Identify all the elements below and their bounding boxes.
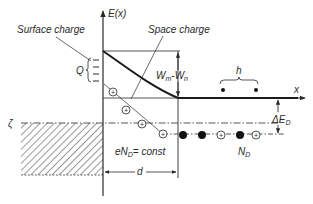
ionized-donor: +	[217, 131, 225, 139]
donor-concentration-label: ND	[238, 146, 250, 158]
y-axis-label: E(x)	[108, 8, 126, 19]
ionized-donor: +	[122, 106, 130, 114]
space-charge-label: Space charge	[148, 24, 210, 35]
svg-text:+: +	[124, 107, 128, 114]
svg-text:+: +	[219, 132, 223, 139]
surface-negative-charges	[93, 60, 99, 81]
ionized-donor: +	[109, 88, 117, 96]
charge-q-label: Q	[76, 65, 84, 76]
h-label: h	[236, 65, 242, 76]
conduction-electron	[221, 88, 225, 92]
svg-text:+: +	[111, 89, 115, 96]
neutral-donor	[198, 131, 206, 139]
svg-text:+: +	[140, 121, 144, 128]
h-brace	[220, 77, 258, 84]
metal-region	[21, 123, 103, 175]
neutral-donor	[236, 131, 244, 139]
svg-text:+: +	[254, 132, 258, 139]
svg-text:+: +	[161, 131, 165, 138]
band-diagram: E(x) x ζ Wm-Wn Surface charge Q Space ch…	[0, 0, 313, 204]
surface-charge-leader	[56, 37, 91, 61]
x-axis-label: x	[293, 84, 300, 95]
depth-d-label: d	[137, 166, 143, 177]
neutral-donor	[179, 131, 187, 139]
ionized-donor: +	[252, 131, 260, 139]
fermi-level-label: ζ	[8, 118, 14, 130]
space-charge-leader	[131, 36, 163, 99]
ionized-donor: +	[159, 130, 167, 138]
conduction-electron	[254, 88, 258, 92]
work-function-difference-label: Wm-Wn	[156, 70, 188, 82]
delta-e-d-label: ΔED	[271, 114, 290, 126]
donor-density-label: eND= const	[115, 146, 167, 158]
surface-charge-brace	[86, 58, 91, 82]
surface-charge-label: Surface charge	[17, 24, 85, 35]
ionized-donor: +	[138, 120, 146, 128]
